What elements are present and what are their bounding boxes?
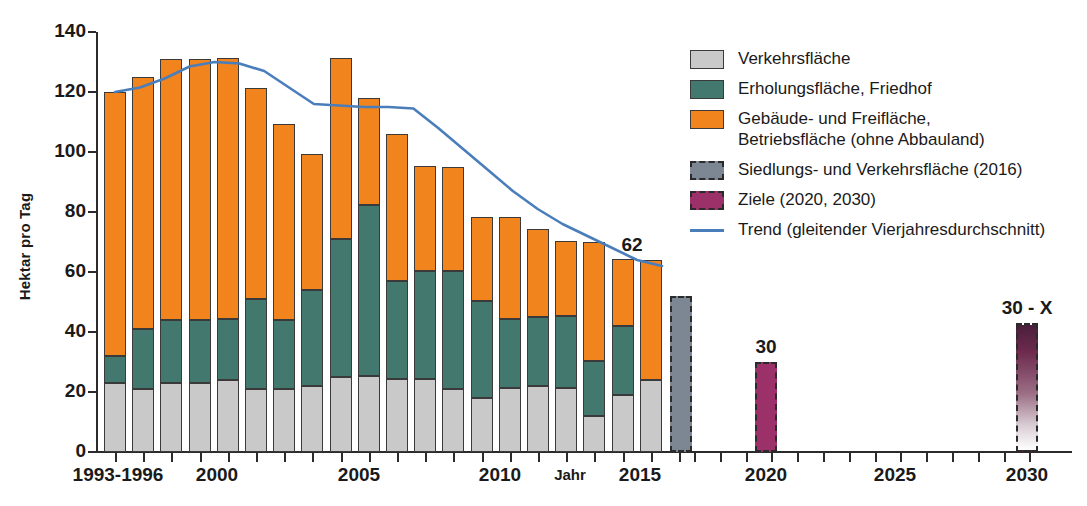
legend-label-building: Gebäude- und Freifläche, Betriebsfläche … xyxy=(738,108,985,150)
legend-label-traffic: Verkehrsfläche xyxy=(738,48,850,69)
trend-line-path xyxy=(115,62,662,266)
legend-swatch-traffic-icon xyxy=(690,50,724,69)
legend-item-verkehrsflaeche[interactable]: Verkehrsfläche xyxy=(690,48,1082,69)
legend-item-siedlungs-verkehrsflaeche[interactable]: Siedlungs- und Verkehrsfläche (2016) xyxy=(690,159,1082,180)
legend-item-erholungsflaeche[interactable]: Erholungsfläche, Friedhof xyxy=(690,78,1082,99)
legend-item-trend[interactable]: Trend (gleitender Vierjahresdurchschnitt… xyxy=(690,219,1082,240)
legend-label-goals: Ziele (2020, 2030) xyxy=(738,189,876,210)
legend-label-building-line2: Betriebsfläche (ohne Abbauland) xyxy=(738,129,985,150)
legend-label-recreation: Erholungsfläche, Friedhof xyxy=(738,78,932,99)
chart-root: 140 120 100 80 60 40 20 0 Hektar pro Tag… xyxy=(0,0,1087,506)
legend-swatch-building-icon xyxy=(690,110,724,129)
legend-swatch-settlement-icon xyxy=(690,161,724,180)
legend-label-trend: Trend (gleitender Vierjahresdurchschnitt… xyxy=(738,219,1045,240)
legend-label-settlement: Siedlungs- und Verkehrsfläche (2016) xyxy=(738,159,1022,180)
legend-swatch-trend-line-icon xyxy=(690,221,724,240)
legend-swatch-recreation-icon xyxy=(690,80,724,99)
legend-item-ziele[interactable]: Ziele (2020, 2030) xyxy=(690,189,1082,210)
legend-swatch-goals-icon xyxy=(690,191,724,210)
trend-end-label: 62 xyxy=(621,234,642,256)
legend: Verkehrsfläche Erholungsfläche, Friedhof… xyxy=(690,48,1082,249)
legend-item-gebaeude-freiflaeche[interactable]: Gebäude- und Freifläche, Betriebsfläche … xyxy=(690,108,1082,150)
legend-label-building-line1: Gebäude- und Freifläche, xyxy=(738,109,931,128)
